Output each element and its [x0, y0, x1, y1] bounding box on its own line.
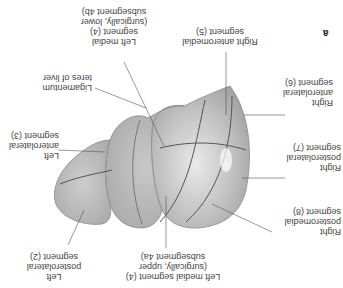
liver-segments-figure: a Right anteromedial segment (5) Left me… — [0, 0, 343, 288]
label-left-posterolateral-segment: Left posterolateral segment (2) — [22, 252, 86, 282]
panel-label: a — [323, 28, 329, 39]
label-left-medial-segment-upper: Left medial segment (4) (surgically, upp… — [118, 252, 228, 282]
label-right-posterolateral-segment: Right posterolateral segment (7) — [273, 143, 341, 173]
label-ligamentum-teres: Ligamentum teres of liver — [30, 73, 92, 93]
label-right-anteromedial-segment: Right anteromedial segment (5) — [170, 27, 270, 47]
label-right-anterolateral-segment: Right anterolateral segment (6) — [273, 78, 333, 108]
label-left-medial-segment-lower: Left medial segment (4) (surgically, low… — [74, 7, 154, 47]
label-left-anterolateral-segment: Left anterolateral segment (3) — [3, 131, 59, 161]
left-lobe — [54, 140, 110, 224]
label-right-posteromedial-segment: Right posteromedial segment (8) — [273, 207, 341, 237]
